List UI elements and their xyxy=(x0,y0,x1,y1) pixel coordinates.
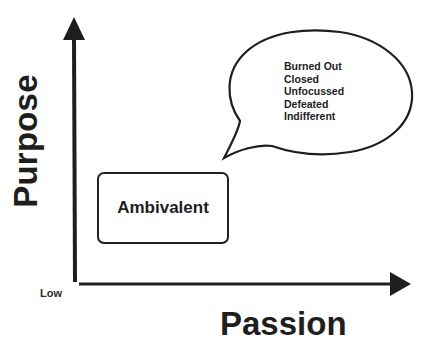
y-axis-line xyxy=(74,36,75,282)
ambivalent-label: Ambivalent xyxy=(117,198,209,218)
y-axis-label: Purpose xyxy=(7,74,45,207)
bubble-item: Burned Out xyxy=(284,60,344,73)
passion-purpose-diagram: Purpose Passion Low Ambivalent Burned Ou… xyxy=(0,0,425,346)
bubble-item: Closed xyxy=(284,73,344,86)
arrow-up-icon xyxy=(63,17,85,40)
bubble-item: Indifferent xyxy=(284,110,344,123)
bubble-item: Defeated xyxy=(284,98,344,111)
x-axis-label: Passion xyxy=(220,305,347,343)
origin-label: Low xyxy=(40,287,62,299)
arrow-right-icon xyxy=(390,272,411,296)
speech-bubble-text: Burned Out Closed Unfocussed Defeated In… xyxy=(284,60,344,123)
bubble-item: Unfocussed xyxy=(284,85,344,98)
ambivalent-quadrant-box: Ambivalent xyxy=(97,172,229,244)
